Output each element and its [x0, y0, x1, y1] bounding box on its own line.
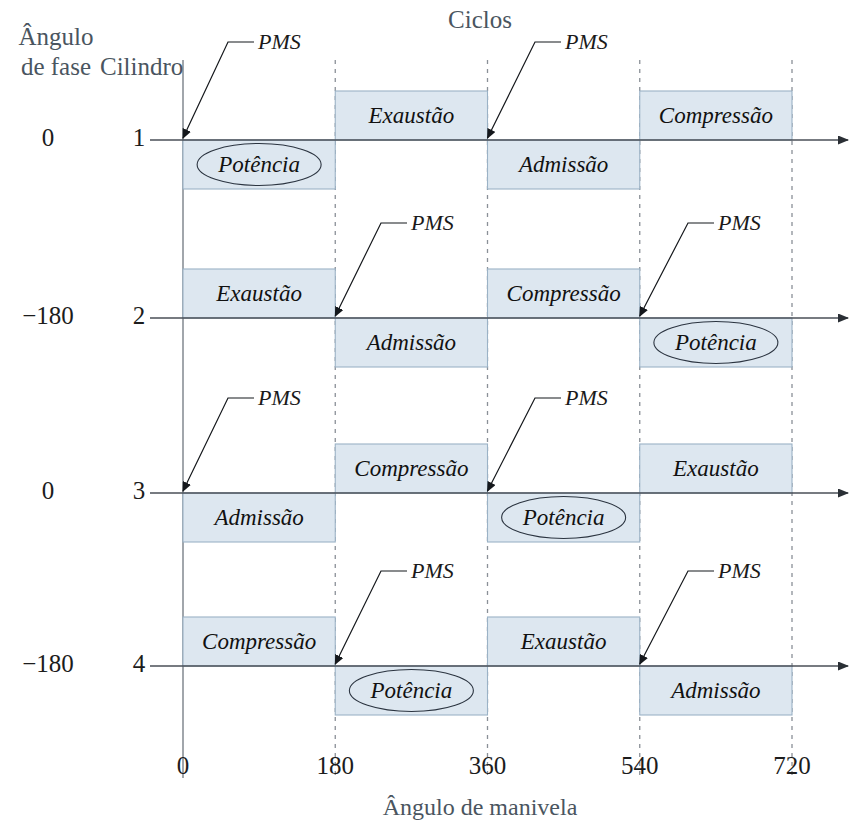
pms-label-cyl1-1: PMS: [565, 29, 608, 55]
engine-cycle-diagram: Ângulo de fase Cilindro Ciclos Ângulo de…: [0, 0, 859, 832]
pms-leader-cyl1-0: [183, 42, 254, 138]
phase-angle-value-cyl1: 0: [0, 124, 96, 152]
stroke-label-cyl2-3: Potência: [675, 330, 757, 356]
stroke-label-cyl3-3: Exaustão: [673, 456, 759, 482]
phase-angle-value-cyl4: −180: [0, 650, 96, 678]
stroke-label-cyl4-0: Compressão: [202, 629, 316, 655]
stroke-label-cyl2-1: Admissão: [367, 330, 456, 356]
pms-leader-cyl4-1: [640, 571, 714, 664]
pms-leader-cyl4-0: [335, 571, 407, 664]
header-cylinder: Cilindro: [100, 52, 178, 82]
stroke-label-cyl3-1: Compressão: [354, 456, 468, 482]
xaxis-title: Ângulo de manivela: [370, 794, 590, 821]
stroke-label-cyl1-1: Exaustão: [369, 103, 455, 129]
stroke-label-cyl1-2: Admissão: [519, 152, 608, 178]
pms-label-cyl3-1: PMS: [565, 385, 608, 411]
stroke-label-cyl3-2: Potência: [523, 505, 605, 531]
phase-angle-value-cyl2: −180: [0, 302, 96, 330]
pms-label-cyl2-0: PMS: [411, 210, 454, 236]
cylinder-number-2: 2: [100, 302, 178, 330]
stroke-label-cyl2-0: Exaustão: [216, 281, 302, 307]
stroke-label-cyl1-0: Potência: [218, 152, 300, 178]
pms-label-cyl1-0: PMS: [258, 29, 301, 55]
pms-label-cyl3-0: PMS: [258, 385, 301, 411]
header-phase-angle-line2: de fase: [8, 52, 104, 82]
stroke-label-cyl4-1: Potência: [371, 678, 453, 704]
pms-leader-cyl1-1: [488, 42, 562, 138]
xaxis-tick-label-360: 360: [448, 752, 528, 780]
stroke-label-cyl4-3: Admissão: [671, 678, 760, 704]
pms-leader-cyl3-1: [488, 398, 562, 491]
xaxis-tick-label-180: 180: [295, 752, 375, 780]
phase-angle-value-cyl3: 0: [0, 477, 96, 505]
header-phase-angle-line1: Ângulo: [8, 22, 104, 52]
pms-leader-cyl2-0: [335, 223, 407, 316]
stroke-label-cyl4-2: Exaustão: [521, 629, 607, 655]
pms-leader-cyl3-0: [183, 398, 254, 491]
xaxis-tick-label-0: 0: [143, 752, 223, 780]
stroke-label-cyl1-3: Compressão: [659, 103, 773, 129]
stroke-label-cyl2-2: Compressão: [507, 281, 621, 307]
pms-label-cyl4-0: PMS: [411, 558, 454, 584]
pms-leader-cyl2-1: [640, 223, 714, 316]
header-phase-angle: Ângulo de fase: [8, 22, 104, 82]
cylinder-number-1: 1: [100, 124, 178, 152]
pms-label-cyl2-1: PMS: [718, 210, 761, 236]
chart-title-ciclos: Ciclos: [420, 6, 540, 34]
xaxis-tick-label-720: 720: [752, 752, 832, 780]
pms-label-cyl4-1: PMS: [718, 558, 761, 584]
stroke-label-cyl3-0: Admissão: [214, 505, 303, 531]
cylinder-number-3: 3: [100, 477, 178, 505]
cylinder-number-4: 4: [100, 650, 178, 678]
xaxis-tick-label-540: 540: [600, 752, 680, 780]
